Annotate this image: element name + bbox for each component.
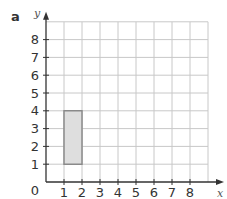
x-axis-label: x [217,187,224,199]
y-tick-label: 8 [31,32,39,47]
shaded-rectangle [64,111,82,164]
y-axis-label: y [33,7,41,20]
x-axis-arrow-icon [216,179,224,185]
x-tick-label: 1 [60,185,68,199]
x-tick-label: 8 [186,185,194,199]
origin-label: 0 [31,183,39,198]
y-tick-label: 4 [31,103,39,118]
y-axis-arrow-icon [43,12,49,20]
y-tick-label: 2 [31,139,39,154]
x-tick-label: 5 [132,185,140,199]
x-tick-label: 4 [114,185,122,199]
y-tick-label: 5 [31,86,39,101]
y-tick-label: 7 [31,50,39,65]
coordinate-grid-chart: 12345678123456780xy [0,0,227,199]
x-tick-label: 6 [150,185,158,199]
x-tick-label: 7 [168,185,176,199]
y-tick-label: 1 [31,157,39,172]
y-tick-label: 6 [31,68,39,83]
y-tick-label: 3 [31,121,39,136]
x-tick-label: 2 [78,185,86,199]
x-tick-label: 3 [96,185,104,199]
